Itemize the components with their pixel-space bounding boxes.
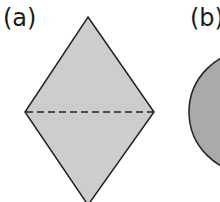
shapes-canvas	[0, 0, 220, 202]
rhombus-shape	[25, 17, 154, 202]
circle-shape	[189, 51, 220, 173]
